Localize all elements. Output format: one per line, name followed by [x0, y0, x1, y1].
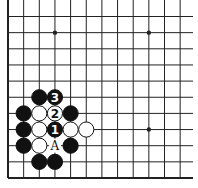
black-stone — [16, 106, 31, 121]
black-stone-disc — [63, 138, 78, 153]
black-stone — [16, 122, 31, 137]
white-stone — [32, 106, 47, 121]
black-stone — [63, 106, 78, 121]
white-stone: 2 — [47, 106, 62, 121]
white-stone — [32, 122, 47, 137]
point-marker: A — [49, 139, 61, 154]
move-number-label: 1 — [51, 123, 59, 137]
black-stone-disc — [63, 106, 78, 121]
black-stone: 1 — [47, 122, 62, 137]
black-stone-disc — [32, 90, 47, 105]
white-stone-disc — [32, 138, 47, 153]
black-stone: 3 — [47, 90, 62, 105]
marker-label: A — [50, 139, 60, 153]
black-stone-disc — [16, 106, 31, 121]
move-number-label: 2 — [51, 107, 59, 121]
star-point — [147, 127, 151, 131]
star-point — [53, 30, 57, 34]
black-stone — [32, 154, 47, 169]
white-stone-disc — [63, 122, 78, 137]
move-number-label: 3 — [51, 91, 59, 105]
go-board: 321 A — [0, 0, 198, 188]
black-stone — [63, 138, 78, 153]
white-stone — [32, 138, 47, 153]
black-stone-disc — [47, 154, 62, 169]
black-stone-disc — [16, 122, 31, 137]
black-stone-disc — [32, 154, 47, 169]
star-point — [147, 30, 151, 34]
white-stone-disc — [79, 122, 94, 137]
white-stone-disc — [32, 106, 47, 121]
white-stone-disc — [32, 122, 47, 137]
black-stone — [32, 90, 47, 105]
white-stone — [63, 122, 78, 137]
black-stone — [16, 138, 31, 153]
white-stone — [79, 122, 94, 137]
black-stone-disc — [16, 138, 31, 153]
markers: A — [49, 139, 61, 154]
black-stone — [47, 154, 62, 169]
stones: 321 — [16, 90, 94, 170]
